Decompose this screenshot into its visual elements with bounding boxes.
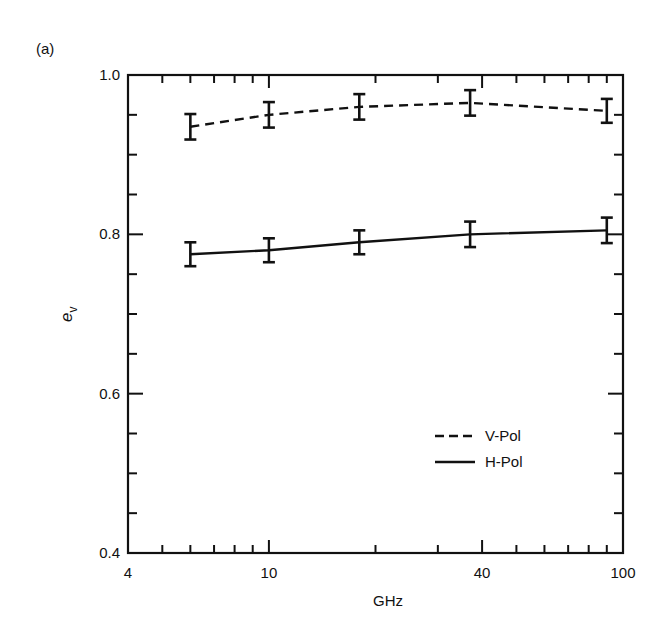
y-tick-label: 1.0 — [99, 66, 120, 83]
data-series — [184, 90, 612, 266]
plot-frame — [128, 75, 623, 553]
series-line-v-pol — [190, 103, 606, 127]
axis-ticks — [128, 75, 623, 553]
legend-label: V-Pol — [485, 427, 521, 444]
x-tick-label: 40 — [474, 564, 491, 581]
emissivity-chart: 410401000.40.60.81.0 V-PolH-Pol GHzev — [0, 0, 662, 618]
x-axis-label: GHz — [373, 592, 403, 609]
y-axis-label: ev — [57, 307, 80, 322]
legend: V-PolH-Pol — [435, 427, 523, 470]
y-tick-label: 0.6 — [99, 385, 120, 402]
x-tick-label: 4 — [124, 564, 132, 581]
legend-label: H-Pol — [485, 453, 523, 470]
x-tick-label: 10 — [261, 564, 278, 581]
axis-labels: GHzev — [57, 307, 403, 609]
tick-labels: 410401000.40.60.81.0 — [99, 66, 635, 581]
series-line-h-pol — [190, 230, 606, 254]
y-tick-label: 0.8 — [99, 225, 120, 242]
plot-border — [128, 75, 623, 553]
y-tick-label: 0.4 — [99, 544, 120, 561]
x-tick-label: 100 — [610, 564, 635, 581]
